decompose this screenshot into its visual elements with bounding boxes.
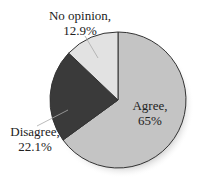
label-disagree-pct: 22.1% xyxy=(2,139,68,154)
label-no-opinion-name: No opinion, xyxy=(40,8,120,23)
label-no-opinion-pct: 12.9% xyxy=(40,23,120,38)
label-no-opinion: No opinion, 12.9% xyxy=(40,8,120,38)
label-agree-pct: 65% xyxy=(120,113,180,128)
label-agree: Agree, 65% xyxy=(120,98,180,128)
label-disagree-name: Disagree, xyxy=(2,124,68,139)
label-agree-name: Agree, xyxy=(120,98,180,113)
label-disagree: Disagree, 22.1% xyxy=(2,124,68,154)
pie-chart: No opinion, 12.9% Agree, 65% Disagree, 2… xyxy=(0,0,198,188)
